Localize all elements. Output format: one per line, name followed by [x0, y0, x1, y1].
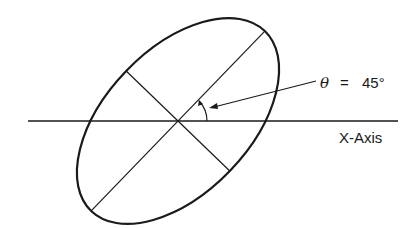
leader-line [214, 81, 316, 107]
x-axis-label: X-Axis [339, 129, 382, 146]
angle-value: 45° [362, 74, 385, 91]
ellipse-group [39, 0, 316, 229]
equals-sign: = [340, 74, 349, 91]
theta-symbol: θ [320, 74, 329, 92]
ellipse [39, 0, 316, 229]
ellipse-diagram: θ = 45° X-Axis [0, 0, 420, 229]
leader-arrowhead-icon [209, 103, 218, 109]
